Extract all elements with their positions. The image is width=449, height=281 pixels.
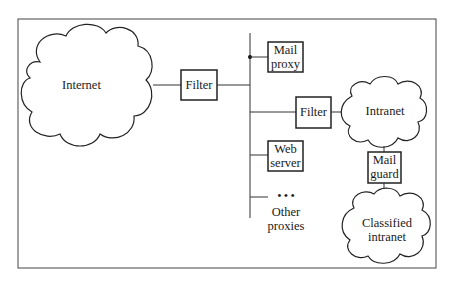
other-proxies-dots: • • • (268, 188, 304, 202)
filter-inner-label: Filter (297, 105, 330, 119)
mail-proxy-label-line2: proxy (268, 57, 303, 71)
classified-label-line1: Classified (356, 216, 418, 230)
intranet-label: Intranet (355, 104, 415, 118)
other-proxies-label-line2: proxies (264, 219, 308, 233)
mail-proxy-label-line1: Mail (268, 43, 303, 57)
web-server-label-line2: server (268, 156, 303, 170)
filter-outer-label: Filter (183, 78, 215, 92)
mail-guard-label-line1: Mail (368, 153, 401, 167)
classified-label-line2: intranet (356, 230, 418, 244)
web-server-label-line1: Web (268, 142, 303, 156)
other-proxies-label-line1: Other (264, 205, 308, 219)
internet-label: Internet (62, 78, 101, 92)
mail-guard-label-line2: guard (368, 167, 401, 181)
